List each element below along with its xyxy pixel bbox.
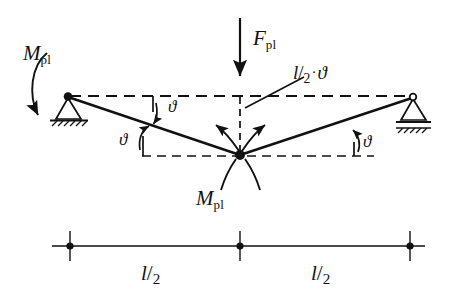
angle-marker-lower-left xyxy=(139,126,149,156)
dim-right-fraction: l/2 xyxy=(311,263,330,287)
deflection-fraction: l/2 xyxy=(293,63,310,86)
label-dimension-right: l/2 xyxy=(311,263,330,287)
moment-center-subscript: pl xyxy=(214,197,225,212)
force-subscript: pl xyxy=(266,37,277,52)
label-moment-left-support: Mpl xyxy=(23,43,51,66)
dim-left-fraction: l/2 xyxy=(141,263,160,287)
label-angle-lower-left: ϑ xyxy=(119,131,127,148)
dimension-line xyxy=(52,231,425,261)
deflection-angle: ϑ xyxy=(317,62,326,83)
deformed-beam-right-segment xyxy=(240,98,412,155)
center-moment-leader xyxy=(228,174,233,181)
label-deflection: l/2·ϑ xyxy=(293,63,327,86)
right-node-hinge xyxy=(410,94,417,101)
angle-marker-upper-left xyxy=(153,96,157,124)
label-angle-right: ϑ xyxy=(363,133,371,150)
center-hinge-node-dot xyxy=(235,150,245,160)
diagram-svg xyxy=(0,0,459,299)
figure-canvas: Mpl Fpl l/2·ϑ ϑ ϑ ϑ Mpl l/2 l/2 xyxy=(0,0,459,299)
dim-right-denominator: 2 xyxy=(323,271,331,287)
moment-left-symbol: M xyxy=(23,41,41,65)
dim-left-denominator: 2 xyxy=(153,271,161,287)
left-node-dot xyxy=(64,92,73,101)
label-moment-center-hinge: Mpl xyxy=(196,188,224,211)
force-symbol: F xyxy=(253,26,266,50)
label-force-fpl: Fpl xyxy=(253,28,276,51)
deformed-beam-left-segment xyxy=(68,97,240,155)
deflection-denominator: 2 xyxy=(304,71,311,86)
label-dimension-left: l/2 xyxy=(141,263,160,287)
moment-left-subscript: pl xyxy=(41,52,52,67)
angle-marker-right xyxy=(353,130,359,156)
label-angle-upper-left: ϑ xyxy=(168,98,176,115)
right-roller-support xyxy=(396,99,431,133)
moment-center-symbol: M xyxy=(196,186,214,210)
